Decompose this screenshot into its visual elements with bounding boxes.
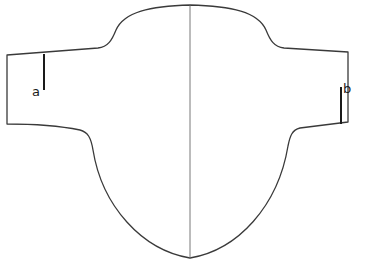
pattern-diagram: a b (0, 0, 381, 264)
label-a: a (32, 84, 40, 99)
label-b: b (343, 81, 351, 96)
pattern-outline (7, 5, 348, 258)
